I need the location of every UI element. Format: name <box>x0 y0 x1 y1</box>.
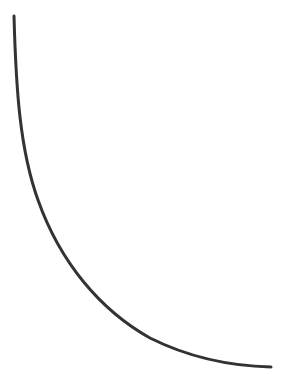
decay-curve <box>14 16 271 367</box>
diagram-canvas <box>0 0 293 374</box>
